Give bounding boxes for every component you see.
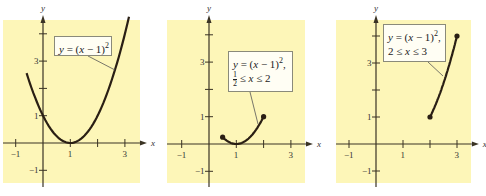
y-tick-label: −1 [362,166,372,176]
exponent: 2 [279,56,283,65]
x-axis-label: x [150,138,155,148]
y-axis-arrow-icon [374,15,379,23]
x-axis-label: x [482,139,486,149]
y-tick-label: 1 [200,112,205,122]
x-axis-arrow-icon [140,141,147,146]
x-tick-label: 1 [234,150,239,160]
panel-3-label: y = (x − 1)2, 2 ≤ x ≤ 3 [383,24,446,62]
y-tick-label: 3 [200,57,205,67]
x-tick-label: −1 [177,150,187,160]
endpoint-dot [220,135,225,140]
fraction-half: 12 [233,71,237,88]
y-tick-label: −1 [195,166,205,176]
x-axis-label: x [316,139,321,149]
x-tick-label: 1 [401,150,406,160]
y-axis-label: y [40,3,45,13]
endpoint-dot [427,114,432,119]
panel-2-label: y = (x − 1)2, 12 ≤ x ≤ 2 [228,51,293,92]
exponent: 2 [105,41,109,50]
panel-1-label: y = (x − 1)2 [54,36,112,56]
x-axis-arrow-icon [306,142,313,147]
x-tick-label: 3 [288,150,293,160]
y-tick-label: 1 [34,111,39,121]
x-tick-label: −1 [11,149,21,159]
endpoint-dot [454,33,459,38]
y-tick-label: 3 [34,56,39,66]
endpoint-dot [261,114,266,119]
x-axis-arrow-icon [472,142,479,147]
y-tick-label: 3 [367,58,372,68]
exponent: 2 [434,29,438,38]
x-tick-label: −1 [344,150,354,160]
y-tick-label: −1 [29,165,39,175]
y-tick-label: 1 [367,112,372,122]
x-tick-label: 1 [68,149,73,159]
y-axis-arrow-icon [41,15,46,23]
y-axis-label: y [206,3,211,13]
x-tick-label: 3 [122,149,127,159]
x-tick-label: 3 [455,150,460,160]
y-axis-label: y [373,3,378,13]
y-axis-arrow-icon [207,15,212,23]
